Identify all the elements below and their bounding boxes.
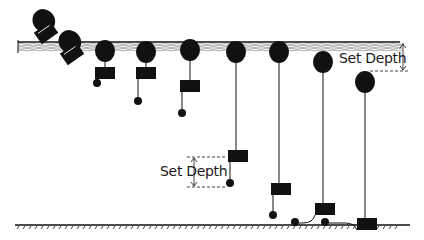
float-ball-icon: [136, 41, 156, 63]
seabed-hatch: [173, 226, 175, 229]
seabed-hatch: [65, 226, 67, 229]
seabed-hatch: [347, 226, 349, 229]
seabed-hatch: [323, 226, 325, 229]
set-depth-diagram: [0, 0, 424, 240]
float-ball-icon: [226, 41, 246, 63]
seabed-hatch: [35, 226, 37, 229]
sinker-ball-icon: [178, 109, 186, 117]
float-ball-icon: [313, 51, 333, 73]
float-3: [93, 40, 115, 87]
seabed-hatch: [119, 226, 121, 229]
seabed-hatch: [341, 226, 343, 229]
weight-block-icon: [136, 67, 156, 79]
float-ball-icon: [269, 41, 289, 63]
sinker-ball-icon: [321, 218, 329, 226]
seabed-hatch: [203, 226, 205, 229]
float-ball-icon: [355, 71, 375, 93]
float-5: [178, 39, 200, 117]
weight-block-icon: [357, 218, 377, 230]
seabed-hatch: [263, 226, 265, 229]
seabed-hatch: [293, 226, 295, 229]
seabed-hatch: [239, 226, 241, 229]
set-depth-label-mid: Set Depth: [160, 164, 227, 178]
drop-line: [299, 215, 315, 223]
float-4: [134, 41, 156, 105]
seabed-hatch: [41, 226, 43, 229]
seabed-hatch: [197, 226, 199, 229]
seabed-hatch: [257, 226, 259, 229]
seabed-hatch: [95, 226, 97, 229]
weight-block-icon: [180, 80, 200, 92]
sinker-ball-icon: [269, 211, 277, 219]
seabed-hatch: [167, 226, 169, 229]
seabed-hatch: [23, 226, 25, 229]
seabed-hatch: [83, 226, 85, 229]
sinker-ball-icon: [134, 97, 142, 105]
seabed-hatch: [245, 226, 247, 229]
set-depth-label-surface: Set Depth: [339, 51, 406, 65]
sinker-ball-icon: [226, 179, 234, 187]
float-1: [25, 5, 64, 44]
seabed-hatch: [71, 226, 73, 229]
seabed-hatch: [155, 226, 157, 229]
float-7: [269, 41, 291, 219]
seabed-hatch: [107, 226, 109, 229]
seabed-hatch: [233, 226, 235, 229]
seabed-hatch: [281, 226, 283, 229]
tilted-float: [25, 5, 64, 44]
seabed-hatch: [317, 226, 319, 229]
seabed-hatch: [161, 226, 163, 229]
seabed-hatch: [59, 226, 61, 229]
seabed-hatch: [149, 226, 151, 229]
seabed-hatch: [389, 226, 391, 229]
seabed-hatch: [383, 226, 385, 229]
seabed-hatch: [29, 226, 31, 229]
seabed-line: [15, 225, 410, 229]
weight-block-icon: [271, 183, 291, 195]
seabed-hatch: [395, 226, 397, 229]
sinker-ball-icon: [93, 79, 101, 87]
float-6: [226, 41, 248, 187]
seabed-hatch: [191, 226, 193, 229]
seabed-hatch: [299, 226, 301, 229]
seabed-hatch: [275, 226, 277, 229]
seabed-hatch: [215, 226, 217, 229]
floats-group: [25, 5, 377, 230]
seabed-hatch: [125, 226, 127, 229]
seabed-hatch: [143, 226, 145, 229]
seabed-hatch: [53, 226, 55, 229]
seabed-hatch: [251, 226, 253, 229]
seabed-hatch: [47, 226, 49, 229]
seabed-hatch: [137, 226, 139, 229]
seabed-hatch: [17, 226, 19, 229]
float-ball-icon: [180, 39, 200, 61]
seabed-hatch: [287, 226, 289, 229]
seabed-hatch: [77, 226, 79, 229]
seabed-hatch: [227, 226, 229, 229]
seabed-hatch: [185, 226, 187, 229]
sinker-ball-icon: [291, 218, 299, 226]
seabed-hatch: [131, 226, 133, 229]
seabed-hatch: [101, 226, 103, 229]
seabed-hatch: [179, 226, 181, 229]
seabed-hatch: [221, 226, 223, 229]
float-8: [291, 51, 335, 226]
seabed-hatch: [89, 226, 91, 229]
float-ball-icon: [95, 40, 115, 62]
seabed-hatch: [335, 226, 337, 229]
seabed-hatch: [329, 226, 331, 229]
weight-block-icon: [228, 150, 248, 162]
seabed-hatch: [311, 226, 313, 229]
seabed-hatch: [113, 226, 115, 229]
weight-block-icon: [95, 67, 115, 79]
weight-block-icon: [315, 203, 335, 215]
seabed-hatch: [305, 226, 307, 229]
seabed-hatch: [377, 226, 379, 229]
seabed-hatch: [269, 226, 271, 229]
seabed-hatch: [209, 226, 211, 229]
